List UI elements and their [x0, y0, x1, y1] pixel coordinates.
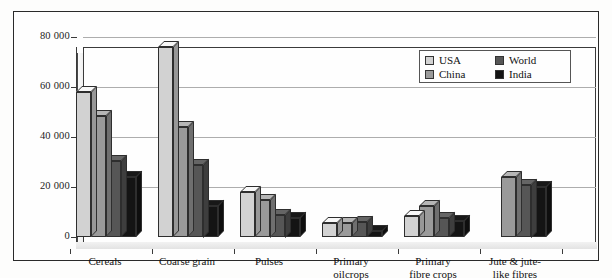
legend-item-china: China: [425, 68, 495, 80]
y-tick: 0: [14, 230, 70, 242]
bar-usa-3: [322, 223, 337, 237]
bar-front-face: [158, 47, 173, 237]
bar-front-face: [322, 223, 337, 237]
legend-label-usa: USA: [439, 54, 461, 66]
bar-front-face: [76, 92, 91, 237]
bar-side-face: [531, 178, 537, 237]
bar-usa-4: [404, 216, 419, 237]
legend-swatch-china: [425, 70, 434, 79]
gridline: [83, 37, 596, 38]
legend-label-china: China: [439, 68, 465, 80]
legend-label-world: World: [509, 54, 536, 66]
bar-side-face: [136, 171, 142, 237]
bar-side-face: [434, 200, 440, 237]
x-tick-mark: [152, 249, 153, 254]
legend-swatch-india: [495, 70, 504, 79]
bar-side-face: [255, 186, 261, 237]
x-tick-mark: [234, 249, 235, 254]
y-tick: 20 000: [14, 180, 70, 192]
legend-row: USA World: [425, 53, 565, 67]
legend-item-india: India: [495, 68, 565, 80]
bar-side-face: [516, 171, 522, 237]
x-axis-category-label: Primary oilcrops: [308, 255, 394, 280]
y-tick-label: 40 000: [40, 130, 70, 141]
bar-side-face: [121, 155, 127, 237]
x-tick-mark: [562, 249, 563, 254]
bar-china-5: [501, 177, 516, 237]
bar-side-face: [188, 121, 194, 237]
x-tick-mark: [480, 249, 481, 254]
bar-side-face: [218, 200, 224, 237]
figure-frame: 020 00040 00060 00080 000 CerealsCoarse …: [13, 11, 599, 261]
bar-usa-0: [76, 92, 91, 237]
bar-side-face: [91, 86, 97, 237]
legend-label-india: India: [509, 68, 532, 80]
legend-item-world: World: [495, 54, 565, 66]
y-tick-label: 60 000: [40, 80, 70, 91]
bar-usa-2: [240, 192, 255, 237]
y-tick-label: 0: [65, 230, 70, 241]
bar-side-face: [106, 110, 112, 237]
x-axis-category-label: Pulses: [226, 255, 312, 268]
y-tick-label: 80 000: [40, 30, 70, 41]
x-tick-mark: [316, 249, 317, 254]
y-tick: 80 000: [14, 30, 70, 42]
bar-front-face: [501, 177, 516, 237]
x-axis-category-label: Primary fibre crops: [390, 255, 476, 280]
bar-usa-1: [158, 47, 173, 237]
bar-front-face: [404, 216, 419, 237]
y-tick-mark: [71, 87, 77, 88]
y-tick: 60 000: [14, 80, 70, 92]
legend-swatch-world: [495, 56, 504, 65]
x-tick-mark: [398, 249, 399, 254]
x-axis-category-label: Coarse grain: [144, 255, 230, 268]
chart-3d-floor: [76, 242, 597, 249]
bar-side-face: [270, 193, 276, 237]
legend-row: China India: [425, 67, 565, 81]
y-tick-label: 20 000: [40, 180, 70, 191]
x-axis-category-label: Cereals: [62, 255, 148, 268]
bar-side-face: [546, 181, 552, 237]
legend-swatch-usa: [425, 56, 434, 65]
legend-item-usa: USA: [425, 54, 495, 66]
x-axis-category-label: Jute & jute- like fibres: [472, 255, 558, 280]
y-tick: 40 000: [14, 130, 70, 142]
bar-side-face: [203, 158, 209, 237]
chart-legend: USA World China India: [419, 50, 571, 83]
bar-front-face: [240, 192, 255, 237]
y-tick-mark: [71, 37, 77, 38]
x-tick-mark: [70, 249, 71, 254]
y-tick-mark: [71, 237, 77, 238]
bar-side-face: [173, 41, 179, 237]
